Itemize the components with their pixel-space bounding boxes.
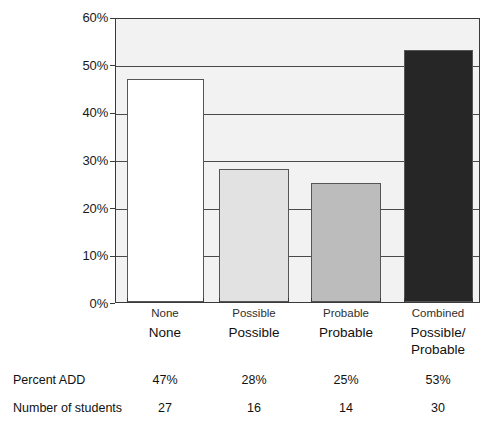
table-cell-percent-none: 47%	[125, 373, 205, 387]
x-tick-label-combined: Combined	[398, 307, 478, 320]
x-tick-label-probable: Probable	[306, 307, 386, 320]
table-cell-count-possible: 16	[214, 401, 294, 415]
bar-none	[127, 79, 204, 302]
table-cell-count-probable: 14	[306, 401, 386, 415]
y-tick-label-0: 0%	[64, 297, 108, 310]
x-tick-label-none: None	[125, 307, 205, 320]
table-column-header-possible: Possible	[214, 325, 294, 340]
data-table: None Possible Probable Possible/ Probabl…	[0, 325, 496, 442]
x-tick-label-possible: Possible	[214, 307, 294, 320]
table-cell-percent-probable: 25%	[306, 373, 386, 387]
bar-possible	[219, 169, 289, 302]
table-column-header-combined-line1: Possible/	[398, 325, 478, 340]
y-axis-labels: 60% 50% 40% 30% 20% 10% 0%	[60, 0, 108, 320]
table-cell-percent-combined: 53%	[398, 373, 478, 387]
x-tick-mark-3	[288, 298, 289, 303]
table-row-label-number-of-students: Number of students	[13, 401, 122, 415]
table-column-header-combined-line2: Probable	[398, 342, 478, 357]
table-column-header-none: None	[125, 325, 205, 340]
table-cell-count-combined: 30	[398, 401, 478, 415]
x-tick-mark-7	[472, 298, 473, 303]
y-tick-label-30: 30%	[64, 154, 108, 167]
table-cell-percent-possible: 28%	[214, 373, 294, 387]
y-tick-label-40: 40%	[64, 106, 108, 119]
x-tick-mark-4	[311, 298, 312, 303]
table-column-header-probable: Probable	[306, 325, 386, 340]
bar-combined	[404, 50, 473, 302]
x-tick-mark-1	[203, 298, 204, 303]
y-tick-label-10: 10%	[64, 249, 108, 262]
x-tick-mark-5	[380, 298, 381, 303]
y-tick-label-50: 50%	[64, 59, 108, 72]
y-tick-label-60: 60%	[64, 11, 108, 24]
y-tick-mark-0	[110, 303, 115, 304]
x-tick-mark-0	[127, 298, 128, 303]
table-row-number-of-students: Number of students 27 16 14 30	[0, 401, 496, 421]
table-cell-count-none: 27	[125, 401, 205, 415]
y-tick-label-20: 20%	[64, 202, 108, 215]
table-row-label-percent-add: Percent ADD	[13, 373, 85, 387]
x-tick-mark-2	[219, 298, 220, 303]
x-tick-mark-6	[404, 298, 405, 303]
table-row-percent-add: Percent ADD 47% 28% 25% 53%	[0, 373, 496, 393]
bar-probable	[311, 183, 381, 302]
plot-area	[115, 18, 480, 303]
